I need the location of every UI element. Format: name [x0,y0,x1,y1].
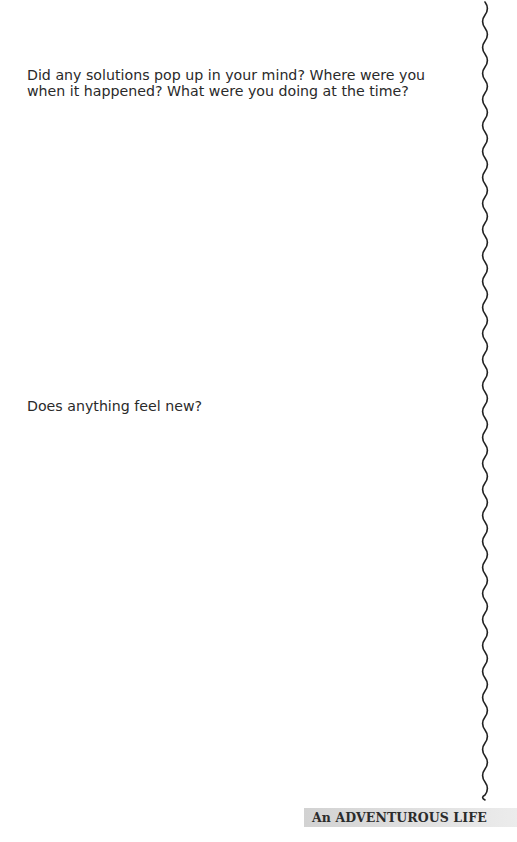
wavy-divider-icon [476,0,496,802]
footer-banner: An ADVENTUROUS LIFE [304,808,517,827]
journal-prompt-solutions: Did any solutions pop up in your mind? W… [27,67,457,99]
book-title: An ADVENTUROUS LIFE [312,809,487,826]
journal-prompt-new: Does anything feel new? [27,398,457,414]
